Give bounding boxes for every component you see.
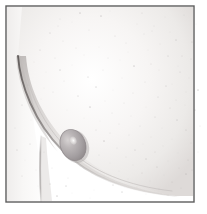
speckle-dot xyxy=(128,179,129,180)
speckle-dot xyxy=(150,181,151,182)
speckle-dot xyxy=(125,42,126,43)
speckle-dot xyxy=(100,15,102,17)
speckle-dot xyxy=(34,62,35,63)
speckle-dot xyxy=(131,116,132,117)
speckle-dot xyxy=(145,158,147,160)
speckle-dot xyxy=(197,89,199,91)
speckle-dot xyxy=(118,123,119,124)
speckle-dot xyxy=(191,169,192,170)
speckle-dot xyxy=(53,92,54,93)
speckle-dot xyxy=(178,66,179,67)
speckle-dot xyxy=(189,78,190,79)
speckle-dot xyxy=(90,198,91,199)
speckle-dot xyxy=(167,55,169,57)
speckle-dot xyxy=(140,126,141,127)
speckle-dot xyxy=(199,125,200,126)
speckle-dot xyxy=(122,78,123,79)
speckle-dot xyxy=(27,84,29,86)
speckle-dot xyxy=(198,152,199,153)
speckle-dot xyxy=(67,110,68,111)
speckle-dot xyxy=(123,102,124,103)
speckle-dot xyxy=(21,175,22,176)
speckle-dot xyxy=(112,113,113,114)
speckle-dot xyxy=(169,107,170,108)
speckle-dot xyxy=(80,166,81,167)
speckle-dot xyxy=(77,95,79,97)
speckle-dot xyxy=(119,171,120,172)
speckle-dot xyxy=(67,177,68,178)
speckle-dot xyxy=(178,153,179,154)
speckle-dot xyxy=(181,55,182,56)
speckle-dot xyxy=(143,144,144,145)
speckle-dot xyxy=(48,130,49,131)
speckle-dot xyxy=(156,166,158,168)
speckle-dot xyxy=(72,65,73,66)
speckle-dot xyxy=(25,160,26,161)
speckle-dot xyxy=(133,165,134,166)
speckle-dot xyxy=(128,52,129,53)
speckle-dot xyxy=(79,12,81,14)
speckle-dot xyxy=(145,82,146,83)
speckle-dot xyxy=(154,116,155,117)
speckle-dot xyxy=(110,133,111,134)
speckle-dot xyxy=(102,69,103,70)
speckle-dot xyxy=(75,47,76,48)
speckle-dot xyxy=(146,107,147,108)
speckle-dot xyxy=(36,170,37,171)
speckle-dot xyxy=(49,32,51,34)
speckle-dot xyxy=(72,22,73,23)
speckle-dot xyxy=(137,24,138,25)
speckle-dot xyxy=(108,58,109,59)
speckle-dot xyxy=(113,90,114,91)
speckle-dot xyxy=(184,15,185,16)
speckle-dot xyxy=(110,163,111,164)
speckle-dot xyxy=(56,195,58,197)
speckle-dot xyxy=(170,32,171,33)
speckle-dot xyxy=(87,76,89,78)
speckle-dot xyxy=(159,70,160,71)
speckle-dot xyxy=(134,149,136,151)
speckle-dot xyxy=(158,188,159,189)
speckle-dot xyxy=(133,65,135,67)
speckle-dot xyxy=(132,92,133,93)
speckle-dot xyxy=(171,181,172,182)
speckle-dot xyxy=(187,159,188,160)
speckle-dot xyxy=(46,72,47,73)
speckle-dot xyxy=(16,149,18,151)
speckle-dot xyxy=(38,186,39,187)
speckle-dot xyxy=(117,148,118,149)
speckle-dot xyxy=(15,128,16,129)
speckle-dot xyxy=(196,24,197,25)
speckle-dot xyxy=(63,80,64,81)
speckle-dot xyxy=(21,104,22,105)
speckle-dot xyxy=(88,29,89,30)
anatomical-illustration xyxy=(0,0,207,214)
speckle-dot xyxy=(186,92,187,93)
speckle-dot xyxy=(94,190,95,191)
figure-root xyxy=(0,0,207,214)
speckle-dot xyxy=(29,143,30,144)
speckle-dot xyxy=(103,140,105,142)
speckle-dot xyxy=(57,25,58,26)
speckle-dot xyxy=(31,120,32,121)
speckle-dot xyxy=(151,137,152,138)
speckle-dot xyxy=(72,193,73,194)
speckle-dot xyxy=(95,86,97,88)
speckle-dot xyxy=(172,139,173,140)
speckle-dot xyxy=(190,142,191,143)
speckle-dot xyxy=(51,167,52,168)
speckle-dot xyxy=(99,47,100,48)
speckle-dot xyxy=(165,17,166,18)
speckle-dot xyxy=(172,84,173,85)
speckle-dot xyxy=(179,71,180,72)
speckle-dot xyxy=(59,69,61,71)
speckle-dot xyxy=(103,176,104,177)
speckle-dot xyxy=(137,187,138,188)
speckle-dot xyxy=(176,100,177,101)
speckle-dot xyxy=(157,96,158,97)
speckle-dot xyxy=(190,58,191,59)
speckle-dot xyxy=(185,105,186,106)
speckle-dot xyxy=(143,33,144,34)
speckle-dot xyxy=(55,58,56,59)
speckle-dot xyxy=(41,99,42,100)
